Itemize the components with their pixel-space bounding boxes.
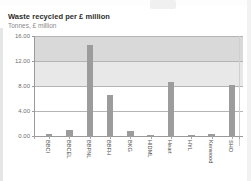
y-axis-tick-mark <box>32 86 35 87</box>
x-axis-tick-mark <box>212 136 213 139</box>
chart-title: Waste recycled per £ million <box>8 12 110 21</box>
x-axis-end-tick <box>239 136 240 139</box>
bar <box>229 85 236 136</box>
x-axis-tick-label: Heart <box>167 140 173 154</box>
scan-artifact <box>150 0 176 9</box>
bar <box>107 95 114 136</box>
x-axis-tick-label: BBCI <box>45 140 51 153</box>
page-edge-top <box>0 0 251 6</box>
x-axis-labels: BBCIBBCELBBPNLBBFHBKGHIDMLHeartHYLKenwoo… <box>34 140 243 180</box>
bar-series <box>34 36 243 137</box>
x-axis-tick-mark <box>232 136 233 139</box>
x-axis-tick-label: HYL <box>187 140 193 151</box>
page-edge-left <box>0 28 3 181</box>
y-axis-tick-mark <box>32 36 35 37</box>
bar <box>168 82 175 136</box>
x-axis-tick-label: BBCEL <box>66 140 72 158</box>
x-axis-end-tick <box>34 136 35 139</box>
x-axis-tick-mark <box>151 136 152 139</box>
x-axis-tick-mark <box>69 136 70 139</box>
x-axis-tick-mark <box>49 136 50 139</box>
y-axis-tick-mark <box>32 111 35 112</box>
plot-right-border <box>239 36 240 146</box>
x-axis-tick-label: SHO <box>228 140 234 152</box>
x-axis-tick-mark <box>171 136 172 139</box>
chart-subtitle: Tonnes, £ million <box>8 22 56 29</box>
y-axis-tick-label: 16.00 <box>15 33 30 39</box>
x-axis-tick-mark <box>191 136 192 139</box>
y-axis-tick-mark <box>32 61 35 62</box>
y-axis-tick-label: 12.00 <box>15 58 30 64</box>
x-axis-tick-label: BBPNL <box>86 140 92 158</box>
y-axis-tick-label: 8.00 <box>18 83 30 89</box>
x-axis-tick-mark <box>90 136 91 139</box>
chart-page: Waste recycled per £ million Tonnes, £ m… <box>0 0 251 181</box>
x-axis-tick-mark <box>130 136 131 139</box>
x-axis-tick-label: Kenwood <box>208 140 214 163</box>
y-axis-tick-label: 4.00 <box>18 108 30 114</box>
plot-area <box>34 36 243 137</box>
x-axis-tick-label: BBFH <box>106 140 112 155</box>
y-axis-tick-label: 0.00 <box>18 133 30 139</box>
x-axis-tick-label: HIDML <box>147 140 153 157</box>
bar <box>87 45 94 136</box>
x-axis-tick-mark <box>110 136 111 139</box>
page-edge-right <box>247 0 251 181</box>
plot-wrapper: 0.004.008.0012.0016.00 <box>34 36 243 137</box>
x-axis-tick-label: BKG <box>127 140 133 152</box>
